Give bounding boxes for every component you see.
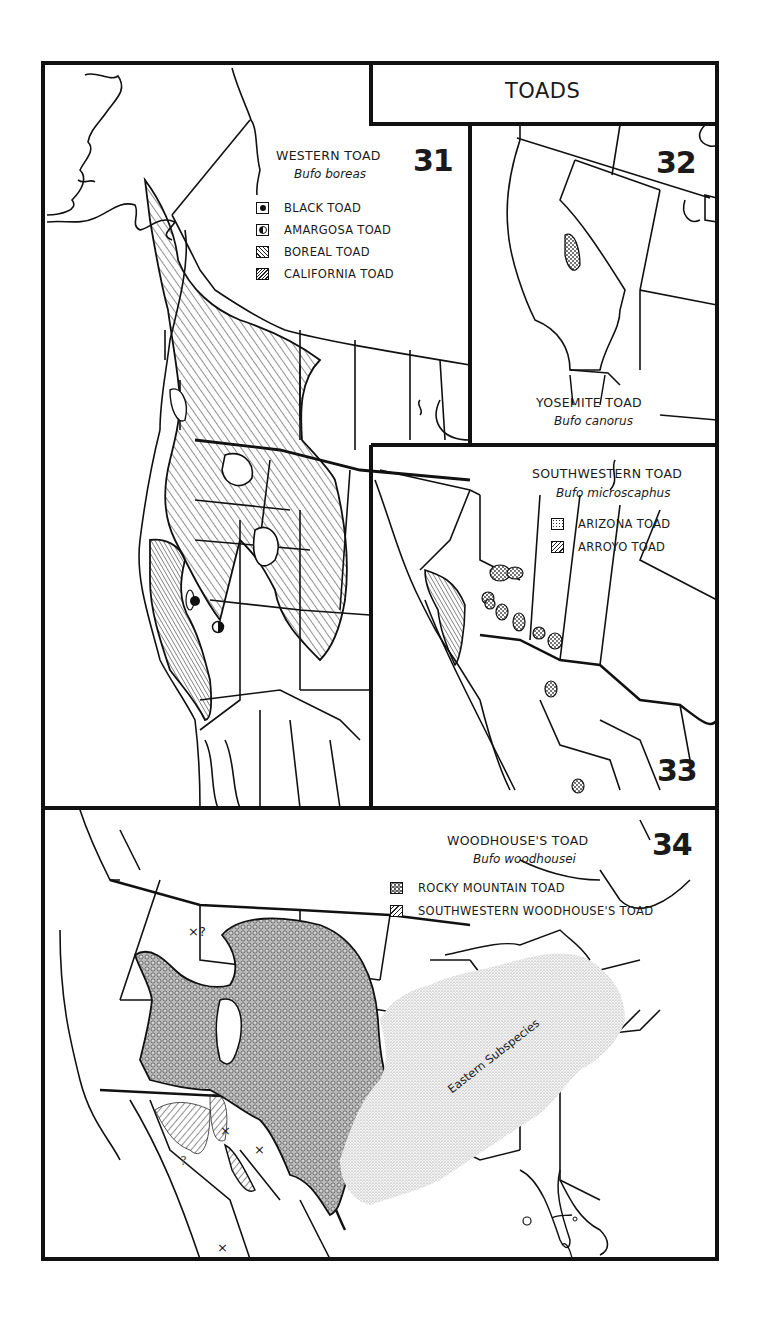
isolated-record-mark-3: ×: [217, 1240, 228, 1255]
uncertain-question-mark: ?: [180, 1153, 187, 1168]
legend-label: SOUTHWESTERN WOODHOUSE'S TOAD: [418, 904, 653, 918]
legend-label: ARROYO TOAD: [578, 540, 665, 554]
arroyo-toad-hatch-icon: [551, 541, 564, 553]
legend-label: ARIZONA TOAD: [578, 517, 671, 531]
toads-range-map-page: TOADS 31 WESTERN TOAD Bufo boreas BLACK …: [0, 0, 764, 1335]
map-31-scientific-name: Bufo boreas: [294, 167, 366, 181]
map-34-common-name: WOODHOUSE'S TOAD: [447, 833, 588, 848]
legend-label: BOREAL TOAD: [284, 245, 370, 259]
california-toad-hatch-icon: [256, 268, 269, 280]
amargosa-toad-swatch-icon: [256, 224, 269, 236]
rocky-mountain-toad-circle-dot-icon: [390, 882, 403, 894]
boreal-toad-hatch-icon: [256, 246, 269, 258]
map-34-scientific-name: Bufo woodhousei: [473, 852, 576, 866]
legend-label: ROCKY MOUNTAIN TOAD: [418, 881, 565, 895]
page-title: TOADS: [505, 79, 580, 103]
map-32-scientific-name: Bufo canorus: [554, 414, 633, 428]
map-31-number: 31: [413, 143, 453, 178]
legend-label: CALIFORNIA TOAD: [284, 267, 394, 281]
map-34-number: 34: [652, 827, 692, 862]
map-33-scientific-name: Bufo microscaphus: [556, 486, 670, 500]
map-artwork: [0, 0, 764, 1335]
map-32-common-name: YOSEMITE TOAD: [536, 395, 642, 410]
map-32-number: 32: [656, 145, 696, 180]
arizona-toad-stipple-icon: [551, 518, 564, 530]
legend-label: BLACK TOAD: [284, 201, 361, 215]
isolated-record-mark-1: ×: [220, 1123, 231, 1138]
isolated-record-mark-2: ×: [254, 1142, 265, 1157]
map-31-common-name: WESTERN TOAD: [276, 148, 381, 163]
uncertain-record-mark: ×?: [188, 924, 206, 939]
legend-label: AMARGOSA TOAD: [284, 223, 391, 237]
map-33-common-name: SOUTHWESTERN TOAD: [532, 466, 682, 481]
sw-woodhouses-toad-hatch-icon: [390, 905, 403, 917]
black-toad-swatch-icon: [256, 202, 269, 214]
map-33-number: 33: [657, 753, 697, 788]
